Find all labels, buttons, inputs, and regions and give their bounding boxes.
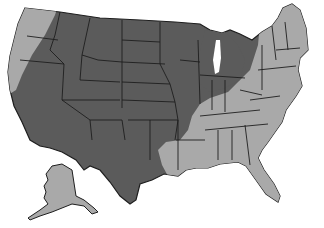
- alaska-inset: [28, 164, 98, 220]
- us-map: [0, 0, 324, 228]
